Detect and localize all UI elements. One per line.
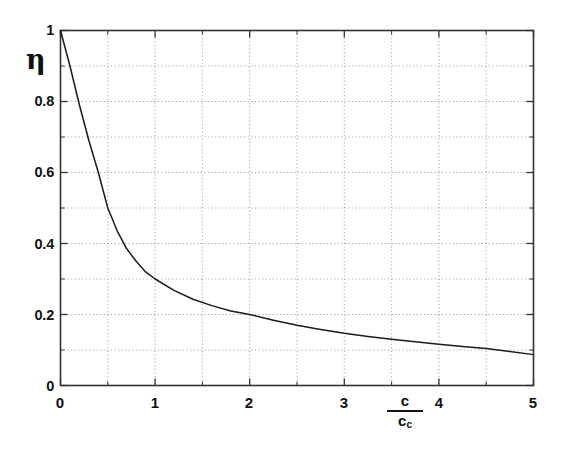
chart-figure: η 1 0.8 0.6 0.4 0.2 0 0 1 2 3 4 5 c cc bbox=[0, 0, 577, 452]
gridlines-minor bbox=[61, 31, 534, 386]
plot-frame bbox=[61, 31, 534, 386]
plot-area bbox=[0, 0, 577, 452]
gridlines-major bbox=[61, 31, 534, 386]
axis-ticks bbox=[61, 31, 534, 386]
